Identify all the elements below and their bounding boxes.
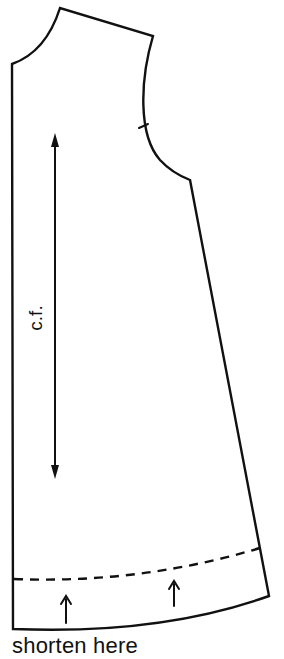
center-front-label: c.f. bbox=[25, 305, 46, 330]
shorten-arrow-left bbox=[61, 596, 71, 623]
pattern-diagram: c.f. bbox=[0, 0, 284, 659]
shorten-line bbox=[14, 548, 260, 580]
pattern-outline bbox=[12, 8, 269, 630]
grainline-arrow bbox=[51, 133, 59, 479]
shorten-arrow-right bbox=[169, 581, 179, 606]
grainline-arrowhead-top bbox=[51, 133, 59, 147]
grainline-arrowhead-bottom bbox=[51, 465, 59, 479]
shorten-here-caption: shorten here bbox=[12, 633, 138, 659]
